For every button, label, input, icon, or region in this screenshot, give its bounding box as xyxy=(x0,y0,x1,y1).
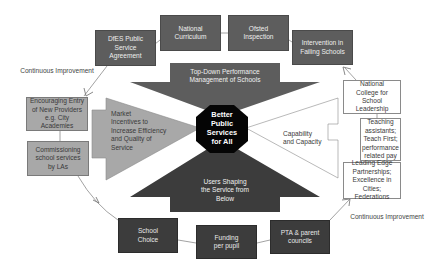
label-line: Top-Down Performance xyxy=(170,68,280,76)
box-label: Commissioning school services by LAs xyxy=(30,146,86,171)
box-funding-per-pupil: Funding per pupil xyxy=(196,225,257,259)
label-line: Incentives to xyxy=(111,118,181,126)
center-line: for All xyxy=(196,137,248,146)
left-arrow-label: Market Incentives to Increase Efficiency… xyxy=(111,110,181,152)
box-label: Funding per pupil xyxy=(199,234,254,251)
box-label: PTA & parent councils xyxy=(273,229,327,246)
continuous-improvement-label-top: Continuous Improvement xyxy=(18,67,96,75)
bottom-arrow-label: Users Shaping the Service from Below xyxy=(172,178,278,203)
label-line: and Capacity xyxy=(283,138,333,146)
cycle-label-text: Continuous Improvement xyxy=(20,67,94,74)
box-ofsted-inspection: Ofsted Inspection xyxy=(228,15,289,51)
center-line: Better xyxy=(196,110,248,119)
box-school-choice: School Choice xyxy=(118,218,178,253)
label-line: Below xyxy=(172,195,278,203)
top-arrow-label: Top-Down Performance Management of Schoo… xyxy=(170,68,280,85)
box-commissioning-services: Commissioning school services by LAs xyxy=(27,141,89,176)
box-label: School Choice xyxy=(121,227,175,244)
label-line: and Quality of xyxy=(111,135,181,143)
box-label: Ofsted Inspection xyxy=(231,25,286,42)
center-line: Services xyxy=(196,128,248,137)
cycle-label-text: Continuous Improvement xyxy=(350,213,424,220)
box-label: Teaching assistants; Teach First; perfor… xyxy=(362,118,399,160)
box-label: National Curriculum xyxy=(163,25,218,42)
continuous-improvement-label-bottom: Continuous Improvement xyxy=(347,213,427,221)
label-line: Service xyxy=(111,144,181,152)
box-encouraging-entry: Encouraging Entry of New Providers e.g. … xyxy=(26,97,88,131)
arrowhead-icon xyxy=(93,197,99,203)
box-label: Leading Edge Partnerships; Excellence in… xyxy=(346,159,398,201)
label-line: Users Shaping xyxy=(172,178,278,186)
center-label: Better Public Services for All xyxy=(196,110,248,146)
center-line: Public xyxy=(196,119,248,128)
box-label: National College for School Leadership xyxy=(346,80,398,114)
box-label: Encouraging Entry of New Providers e.g. … xyxy=(29,97,85,131)
box-national-curriculum: National Curriculum xyxy=(160,15,221,51)
box-teaching-assistants: Teaching assistants; Teach First; perfor… xyxy=(360,118,401,161)
label-line: Increase Efficiency xyxy=(111,127,181,135)
label-line: Market xyxy=(111,110,181,118)
label-line: Management of Schools xyxy=(170,76,280,84)
box-label: Intervention in Failing Schools xyxy=(295,39,350,56)
arrowhead-icon xyxy=(84,88,93,96)
label-line: the Service from xyxy=(172,186,278,194)
box-intervention-failing-schools: Intervention in Failing Schools xyxy=(292,30,353,65)
box-national-college: National College for School Leadership xyxy=(343,80,401,114)
box-leading-edge: Leading Edge Partnerships; Excellence in… xyxy=(343,162,401,199)
box-pta-parent-councils: PTA & parent councils xyxy=(270,220,330,254)
right-arrow-label: Capability and Capacity xyxy=(283,130,333,147)
label-line: Capability xyxy=(283,130,333,138)
box-dfes-psa: DfES Public Service Agreement xyxy=(95,30,156,66)
box-label: DfES Public Service Agreement xyxy=(98,35,153,60)
